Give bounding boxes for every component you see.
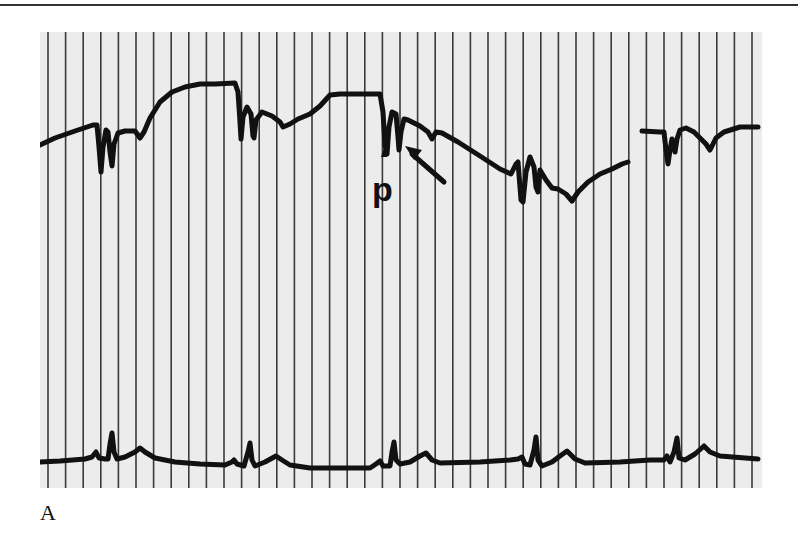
panel-label: A (40, 500, 56, 526)
upper-waveform (40, 83, 628, 202)
vertical-gridlines (48, 32, 752, 488)
pointer-arrow (405, 146, 444, 182)
trace-plot (40, 32, 762, 488)
ecg-trace (40, 433, 758, 468)
p-annotation-label: p (372, 170, 393, 209)
strip-chart-figure (40, 32, 762, 488)
top-rule (0, 4, 798, 6)
